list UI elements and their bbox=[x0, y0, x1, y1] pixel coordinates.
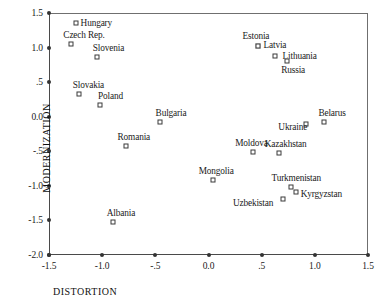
x-tick-label: -1.5 bbox=[42, 261, 57, 271]
plot-area: 1.51.0.50.0-.5-1.0-1.5-2.0-1.5-1.0-.50.0… bbox=[49, 13, 368, 255]
x-tick-mark bbox=[100, 253, 104, 257]
x-tick-label: 1.0 bbox=[309, 261, 321, 271]
data-point-marker bbox=[210, 178, 215, 183]
x-axis-title: DISTORTION bbox=[53, 286, 117, 297]
x-tick-mark bbox=[313, 253, 317, 257]
scatter-plot-figure: 1.51.0.50.0-.5-1.0-1.5-2.0-1.5-1.0-.50.0… bbox=[0, 0, 392, 308]
data-point-label: Belarus bbox=[318, 109, 345, 118]
y-tick-mark bbox=[47, 218, 51, 222]
y-axis-title: MODERNIZATION bbox=[41, 103, 52, 192]
data-point-label: Poland bbox=[98, 92, 123, 101]
data-point-label: Turkmenistan bbox=[271, 174, 321, 183]
data-point-label: Uzbekistan bbox=[233, 199, 273, 208]
data-point-marker bbox=[280, 196, 285, 201]
data-point-marker bbox=[123, 143, 128, 148]
data-point-label: Albania bbox=[107, 209, 135, 218]
data-point-marker bbox=[285, 58, 290, 63]
x-tick-mark bbox=[366, 253, 370, 257]
data-point-label: Kyrgyzstan bbox=[301, 190, 342, 199]
x-tick-label: -1.0 bbox=[95, 261, 110, 271]
x-tick-mark bbox=[153, 253, 157, 257]
data-point-label: Hungary bbox=[81, 19, 112, 28]
data-point-label: Moldova bbox=[235, 139, 268, 148]
data-point-label: Slovakia bbox=[73, 81, 104, 90]
y-tick-mark bbox=[47, 11, 51, 15]
data-point-marker bbox=[76, 91, 81, 96]
data-point-label: Ukraine bbox=[278, 123, 307, 132]
data-point-label: Romania bbox=[118, 133, 151, 142]
data-point-label: Kazakhstan bbox=[265, 140, 307, 149]
y-tick-label: .5 bbox=[36, 77, 43, 87]
data-point-label: Slovenia bbox=[93, 44, 124, 53]
data-point-marker bbox=[289, 184, 294, 189]
y-tick-label: 1.5 bbox=[31, 8, 43, 18]
data-point-label: Mongolia bbox=[199, 167, 234, 176]
data-point-marker bbox=[276, 150, 281, 155]
x-tick-label: .5 bbox=[258, 261, 265, 271]
data-point-marker bbox=[73, 21, 78, 26]
data-point-label: Latvia bbox=[263, 41, 286, 50]
y-tick-label: 1.0 bbox=[31, 43, 43, 53]
data-point-marker bbox=[98, 102, 103, 107]
data-point-marker bbox=[256, 44, 261, 49]
y-tick-mark bbox=[47, 80, 51, 84]
data-point-label: Russia bbox=[281, 66, 305, 75]
y-tick-mark bbox=[47, 46, 51, 50]
data-point-marker bbox=[273, 53, 278, 58]
data-point-label: Bulgaria bbox=[156, 109, 187, 118]
x-tick-label: -.5 bbox=[150, 261, 160, 271]
y-tick-label: -2.0 bbox=[28, 250, 43, 260]
data-point-marker bbox=[94, 55, 99, 60]
data-point-marker bbox=[293, 190, 298, 195]
data-point-marker bbox=[157, 119, 162, 124]
data-point-marker bbox=[69, 42, 74, 47]
x-tick-mark bbox=[207, 253, 211, 257]
data-point-marker bbox=[251, 149, 256, 154]
x-tick-label: 1.5 bbox=[362, 261, 374, 271]
data-point-label: Czech Rep. bbox=[63, 31, 104, 40]
x-tick-mark bbox=[260, 253, 264, 257]
y-tick-label: -1.5 bbox=[28, 215, 43, 225]
data-point-marker bbox=[322, 120, 327, 125]
data-point-marker bbox=[110, 219, 115, 224]
x-tick-label: 0.0 bbox=[203, 261, 215, 271]
x-tick-mark bbox=[47, 253, 51, 257]
